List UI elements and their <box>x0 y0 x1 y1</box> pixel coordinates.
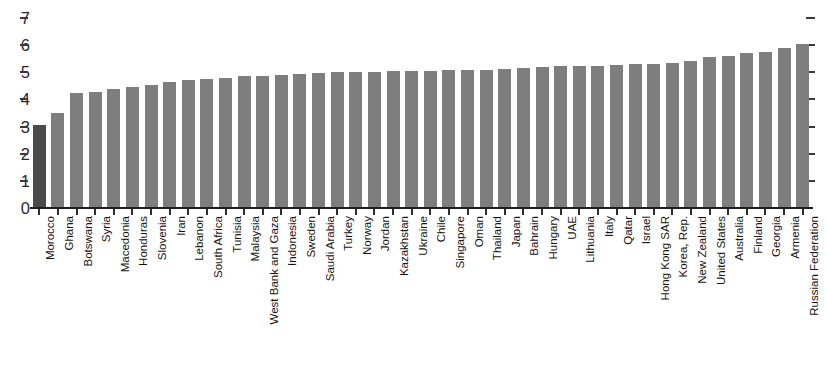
bar <box>424 71 437 208</box>
x-axis-tick <box>709 209 711 215</box>
bar <box>610 65 623 208</box>
x-axis-label: Turkey <box>342 216 355 251</box>
y-axis-tick-dash <box>20 126 28 128</box>
bar <box>684 61 697 208</box>
plot-area <box>30 18 812 208</box>
bar <box>461 70 474 208</box>
x-axis-tick <box>243 209 245 215</box>
x-axis-label: Malaysia <box>249 216 262 261</box>
bar <box>778 48 791 208</box>
x-axis-tick <box>206 209 208 215</box>
x-axis-tick <box>429 209 431 215</box>
y-axis-tick-dash <box>20 180 28 182</box>
x-axis-tick <box>541 209 543 215</box>
bar-chart: 01234567 MoroccoGhanaBotswanaSyriaMacedo… <box>0 0 827 374</box>
x-axis-tick <box>336 209 338 215</box>
x-axis-tick <box>690 209 692 215</box>
bar <box>349 72 362 208</box>
bar <box>200 79 213 208</box>
bar <box>387 71 400 208</box>
x-axis-label: Bahrain <box>528 216 541 256</box>
x-axis-label: Ghana <box>63 216 76 251</box>
x-axis-tick <box>262 209 264 215</box>
bar <box>517 68 530 208</box>
x-axis-tick <box>76 209 78 215</box>
x-axis-tick <box>802 209 804 215</box>
y-axis-tick-dash <box>20 98 28 100</box>
x-axis-label: Morocco <box>44 216 57 260</box>
x-axis-tick <box>150 209 152 215</box>
bar <box>647 64 660 208</box>
x-axis-label: Finland <box>752 216 765 254</box>
x-axis-tick <box>653 209 655 215</box>
x-axis-label: Korea, Rep. <box>677 216 690 277</box>
x-axis-labels: MoroccoGhanaBotswanaSyriaMacedoniaHondur… <box>30 216 820 374</box>
bar <box>219 78 232 208</box>
x-axis-tick <box>38 209 40 215</box>
x-axis-tick <box>355 209 357 215</box>
bar <box>126 87 139 208</box>
x-axis-label: United States <box>715 216 728 285</box>
x-axis-label: Chile <box>435 216 448 242</box>
bar <box>70 93 83 208</box>
x-axis-label: Russian Federation <box>808 216 821 316</box>
x-axis-tick <box>299 209 301 215</box>
x-axis-tick <box>131 209 133 215</box>
bar <box>51 113 64 208</box>
x-axis-tick <box>94 209 96 215</box>
bar <box>33 125 46 208</box>
x-axis-tick <box>522 209 524 215</box>
bar <box>293 74 306 208</box>
x-axis-label: Sweden <box>305 216 318 258</box>
y-axis-tick-dash <box>20 153 28 155</box>
x-axis-tick <box>671 209 673 215</box>
x-axis-tick <box>113 209 115 215</box>
bar <box>759 52 772 208</box>
x-axis-tick <box>578 209 580 215</box>
bar <box>145 85 158 209</box>
x-axis-label: Armenia <box>789 216 802 259</box>
x-axis-tick <box>467 209 469 215</box>
x-axis-tick <box>373 209 375 215</box>
x-axis-tick <box>392 209 394 215</box>
x-axis-label: Macedonia <box>119 216 132 272</box>
x-axis-tick <box>560 209 562 215</box>
x-axis-label: Israel <box>640 216 653 244</box>
x-axis-label: Syria <box>100 216 113 242</box>
x-axis-tick <box>783 209 785 215</box>
bar <box>629 64 642 208</box>
bar <box>405 71 418 208</box>
x-axis-tick <box>485 209 487 215</box>
x-axis-tick <box>187 209 189 215</box>
x-axis-tick <box>727 209 729 215</box>
x-axis-tick <box>597 209 599 215</box>
x-axis-tick <box>57 209 59 215</box>
x-axis-tick <box>411 209 413 215</box>
x-axis-label: West Bank and Gaza <box>268 216 281 324</box>
bar <box>722 56 735 208</box>
bar <box>442 70 455 208</box>
x-axis-label: UAE <box>566 216 579 240</box>
x-axis-tick <box>318 209 320 215</box>
x-axis-label: Tunisia <box>231 216 244 253</box>
bar <box>89 92 102 208</box>
y-axis-tick-dash <box>20 44 28 46</box>
x-axis-label: Qatar <box>622 216 635 245</box>
x-axis-label: Lithuania <box>584 216 597 263</box>
y-axis-tick-dash <box>20 17 28 19</box>
x-axis-label: Ukraine <box>417 216 430 256</box>
bar <box>275 75 288 208</box>
x-axis-tick <box>225 209 227 215</box>
x-axis-label: New Zealand <box>696 216 709 284</box>
bar <box>740 53 753 208</box>
bar <box>666 63 679 208</box>
bar <box>163 82 176 208</box>
bar <box>498 69 511 208</box>
x-axis-label: Japan <box>510 216 523 247</box>
x-axis-label: Indonesia <box>286 216 299 266</box>
x-axis-label: Georgia <box>770 216 783 257</box>
x-axis-tick <box>504 209 506 215</box>
x-axis-tick <box>616 209 618 215</box>
x-axis-label: Thailand <box>491 216 504 260</box>
bar <box>554 66 567 208</box>
